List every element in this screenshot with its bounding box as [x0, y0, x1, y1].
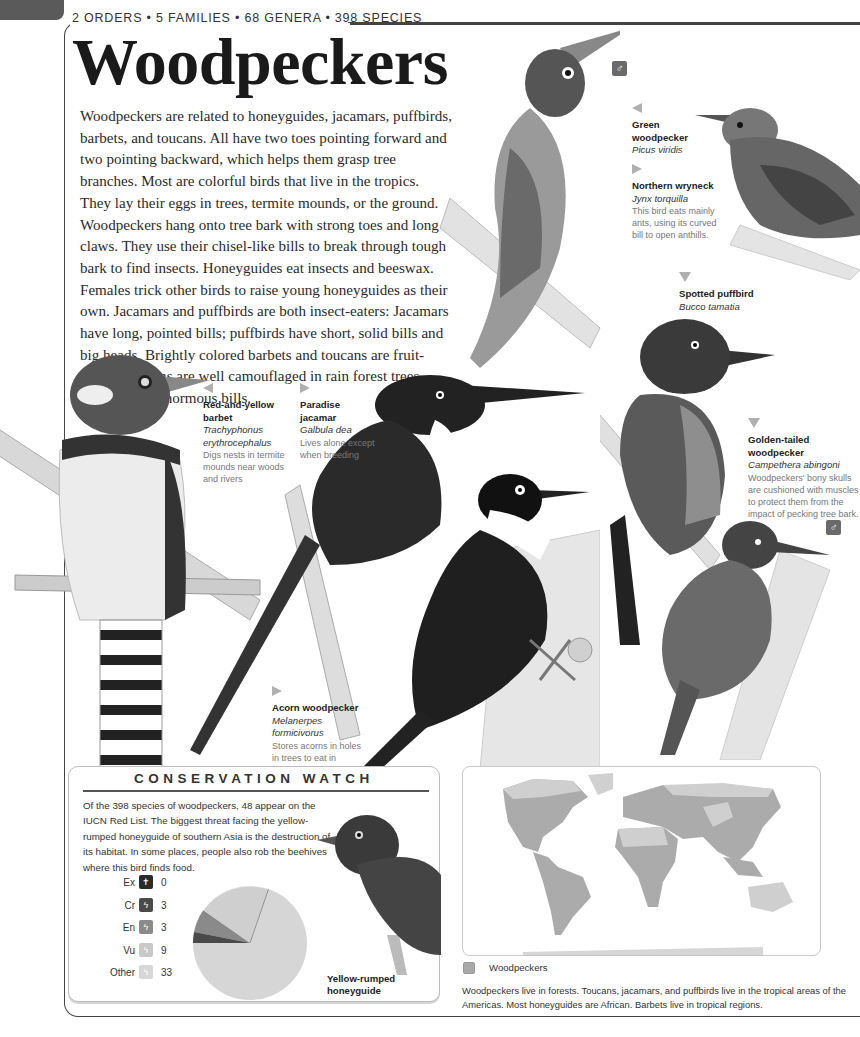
distribution-map	[462, 766, 821, 956]
arrow-right-icon	[300, 383, 310, 393]
page-title: Woodpeckers	[72, 24, 448, 100]
arrow-down-icon	[679, 272, 691, 282]
caption-golden-tailed-woodpecker: Golden-tailed woodpecker Campethera abin…	[748, 418, 860, 520]
arrow-left-icon	[203, 383, 213, 393]
caption-acorn-woodpecker: Acorn woodpecker Melanerpes formicivorus…	[272, 686, 362, 776]
arrow-right-icon	[272, 686, 282, 696]
arrow-left-icon	[632, 103, 642, 113]
caption-red-and-yellow-barbet: Red-and-yellow barbet Trachyphonus eryth…	[203, 383, 285, 485]
cross-icon: ✝	[139, 875, 153, 889]
caption-northern-wryneck: Northern wryneck Jynx torquilla This bir…	[632, 164, 722, 241]
male-symbol-icon: ♂	[826, 520, 841, 535]
caption-paradise-jacamar: Paradise jacamar Galbula dea Lives alone…	[300, 383, 376, 461]
green-woodpecker-illustration	[440, 28, 620, 378]
page-corner-tab	[0, 0, 64, 20]
male-symbol-icon: ♂	[612, 61, 627, 76]
taxonomy-stats: 2 ORDERS • 5 FAMILIES • 68 GENERA • 398 …	[72, 11, 422, 25]
bird-icon: ϟ	[139, 898, 153, 912]
caption-spotted-puffbird: Spotted puffbird Bucco tamatia	[679, 272, 769, 313]
acorn-woodpecker-illustration	[360, 470, 600, 770]
golden-tailed-woodpecker-illustration	[630, 510, 830, 760]
honeyguide-label: Yellow-rumped honeyguide	[327, 973, 397, 997]
yellow-rumped-honeyguide-illustration	[317, 805, 441, 975]
conservation-watch-panel: CONSERVATION WATCH Of the 398 species of…	[68, 766, 440, 1002]
map-caption: Woodpeckers live in forests. Toucans, ja…	[462, 984, 860, 1011]
arrow-down-icon	[748, 418, 760, 428]
map-legend: Woodpeckers	[463, 962, 547, 974]
conservation-heading: CONSERVATION WATCH	[69, 771, 439, 786]
conservation-rule	[83, 790, 429, 792]
woodpeckers-swatch	[463, 962, 475, 974]
iucn-pie-chart	[192, 885, 308, 1001]
bird-icon: ϟ	[139, 920, 153, 934]
world-map	[463, 767, 821, 956]
conservation-text: Of the 398 species of woodpeckers, 48 ap…	[83, 798, 333, 875]
bird-icon: ϟ	[139, 965, 153, 979]
bird-icon: ϟ	[139, 943, 153, 957]
caption-green-woodpecker: Green woodpecker Picus viridis	[632, 103, 712, 157]
arrow-right-icon	[632, 164, 642, 174]
